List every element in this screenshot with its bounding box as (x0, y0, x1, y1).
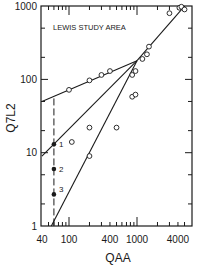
open-circle-point (133, 69, 138, 74)
open-circle-point (147, 44, 152, 49)
open-circle-point (87, 78, 92, 83)
open-circle-point (67, 87, 72, 92)
line-2 (42, 61, 137, 156)
axis-ticks (41, 6, 192, 226)
x-tick-label: 40 (36, 234, 48, 245)
line-2 (137, 6, 185, 61)
open-circle-point (108, 69, 113, 74)
point-label: 1 (59, 140, 64, 149)
point-labels: 123 (59, 140, 64, 194)
point-label: 3 (59, 185, 64, 194)
filled-circle-point (52, 192, 57, 197)
x-axis-label: QAA (105, 251, 130, 265)
x-tick-label: 400 (102, 234, 119, 245)
y-tick-label: 1 (31, 221, 37, 232)
data-points (52, 4, 187, 196)
filled-circle-point (52, 167, 57, 172)
y-tick-label: 100 (20, 74, 37, 85)
y-tick-label: 1000 (15, 1, 38, 12)
x-tick-label: 1000 (126, 234, 149, 245)
open-circle-point (140, 57, 145, 62)
open-circle-point (114, 125, 119, 130)
chart-title: LEWIS STUDY AREA (53, 23, 126, 32)
open-circle-point (182, 7, 187, 12)
filled-circle-point (52, 142, 57, 147)
plot-frame (41, 6, 192, 226)
open-circle-point (145, 52, 150, 57)
y-axis-label: Q7L2 (4, 103, 18, 133)
open-circle-point (133, 92, 138, 97)
open-circle-point (69, 140, 74, 145)
x-tick-label: 100 (61, 234, 78, 245)
open-circle-point (87, 154, 92, 159)
chart: 40100400100040001101001000 LEWIS STUDY A… (0, 0, 198, 269)
open-circle-point (99, 73, 104, 78)
line-3 (51, 61, 137, 226)
open-circle-point (167, 11, 172, 16)
x-tick-label: 4000 (167, 234, 190, 245)
open-circle-point (87, 125, 92, 130)
y-tick-label: 10 (26, 147, 38, 158)
point-label: 2 (59, 165, 64, 174)
